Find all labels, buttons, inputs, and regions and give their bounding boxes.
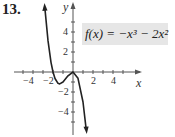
curve-up-arrow-icon (42, 3, 47, 11)
function-label: f(x) = −x³ − 2x² (82, 23, 168, 45)
y-tick-label-4: 4 (63, 27, 68, 37)
y-axis-arrow-icon (71, 2, 76, 9)
graph-plot (0, 0, 175, 137)
x-axis-arrow-icon (135, 70, 142, 75)
y-tick-label-neg4: −4 (58, 107, 69, 117)
x-tick-label-neg2: −2 (43, 76, 54, 86)
x-tick-label-2: 2 (91, 76, 96, 86)
x-tick-label-neg4: −4 (23, 76, 34, 86)
y-axis-label: y (63, 1, 68, 13)
x-axis-label: x (136, 77, 141, 89)
x-tick-label-4: 4 (111, 76, 116, 86)
y-tick-label-neg2: −2 (58, 87, 69, 97)
curve-down-arrow-icon (84, 127, 89, 135)
y-tick-label-2: 2 (63, 47, 68, 57)
